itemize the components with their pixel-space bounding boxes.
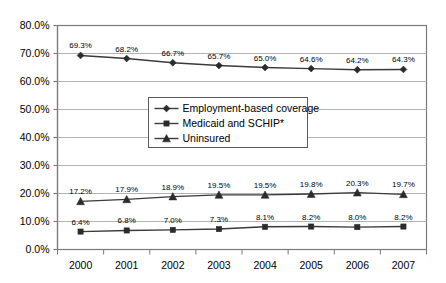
series-medicaid-and-schip-marker-2 (170, 227, 175, 232)
data-label-uninsured-2007: 19.7% (392, 180, 415, 189)
data-label-medicaid-and-schip-2007: 8.2% (394, 213, 412, 222)
data-label-uninsured-2006: 20.3% (346, 179, 369, 188)
data-label-employment-based-coverage-2006: 64.2% (346, 56, 369, 65)
data-label-medicaid-and-schip-2005: 8.2% (302, 213, 320, 222)
legend-label-employment-based-coverage: Employment-based coverage (183, 102, 320, 114)
y-axis-label-50: 50.0% (20, 103, 50, 115)
series-medicaid-and-schip-marker-4 (262, 224, 267, 229)
data-label-medicaid-and-schip-2003: 7.3% (210, 215, 228, 224)
data-label-employment-based-coverage-2003: 65.7% (208, 52, 231, 61)
legend-label-uninsured: Uninsured (183, 132, 231, 144)
data-label-employment-based-coverage-2005: 64.6% (300, 55, 323, 64)
legend-medicaid-and-schip-marker-swatch (164, 121, 169, 126)
x-axis-label-2002: 2002 (161, 259, 185, 271)
data-label-uninsured-2000: 17.2% (69, 187, 92, 196)
y-axis-label-40: 40.0% (20, 131, 50, 143)
series-medicaid-and-schip-marker-6 (355, 225, 360, 230)
data-label-employment-based-coverage-2004: 65.0% (254, 54, 277, 63)
data-label-employment-based-coverage-2001: 68.2% (115, 45, 138, 54)
x-axis-label-2007: 2007 (392, 259, 416, 271)
x-axis-label-2006: 2006 (346, 259, 370, 271)
data-label-medicaid-and-schip-2002: 7.0% (164, 216, 182, 225)
x-axis-label-2005: 2005 (300, 259, 324, 271)
x-axis-label-2000: 2000 (69, 259, 93, 271)
data-label-uninsured-2005: 19.8% (300, 180, 323, 189)
data-label-uninsured-2003: 19.5% (208, 181, 231, 190)
series-medicaid-and-schip-marker-0 (78, 229, 83, 234)
line-chart: 0.0%10.0%20.0%30.0%40.0%50.0%60.0%70.0%8… (0, 0, 446, 283)
series-medicaid-and-schip-marker-7 (401, 224, 406, 229)
y-axis-label-30: 30.0% (20, 159, 50, 171)
data-label-employment-based-coverage-2000: 69.3% (69, 41, 92, 50)
data-label-medicaid-and-schip-2000: 6.4% (71, 218, 89, 227)
series-medicaid-and-schip-marker-5 (309, 224, 314, 229)
chart-canvas: 0.0%10.0%20.0%30.0%40.0%50.0%60.0%70.0%8… (0, 0, 446, 283)
data-label-medicaid-and-schip-2004: 8.1% (256, 213, 274, 222)
x-axis-label-2003: 2003 (207, 259, 231, 271)
y-axis-label-70: 70.0% (20, 47, 50, 59)
y-axis-label-20: 20.0% (20, 187, 50, 199)
data-label-employment-based-coverage-2007: 64.3% (392, 55, 415, 64)
data-label-uninsured-2004: 19.5% (254, 181, 277, 190)
data-label-uninsured-2002: 18.9% (161, 183, 184, 192)
legend-label-medicaid-and-schip: Medicaid and SCHIP* (183, 117, 285, 129)
series-medicaid-and-schip-marker-3 (216, 226, 221, 231)
y-axis-label-0: 0.0% (26, 243, 50, 255)
data-label-employment-based-coverage-2002: 66.7% (161, 49, 184, 58)
y-axis-label-10: 10.0% (20, 215, 50, 227)
series-medicaid-and-schip-marker-1 (124, 228, 129, 233)
y-axis-label-80: 80.0% (20, 19, 50, 31)
data-label-medicaid-and-schip-2001: 6.8% (118, 216, 136, 225)
x-axis-label-2001: 2001 (115, 259, 139, 271)
y-axis-label-60: 60.0% (20, 75, 50, 87)
x-axis-label-2004: 2004 (253, 259, 277, 271)
data-label-uninsured-2001: 17.9% (115, 185, 138, 194)
data-label-medicaid-and-schip-2006: 8.0% (348, 213, 366, 222)
